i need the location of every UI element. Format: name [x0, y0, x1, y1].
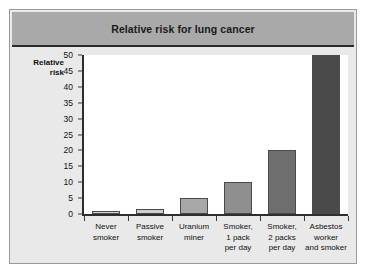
- y-axis-tick-label: 40: [64, 82, 73, 92]
- y-axis-tick-label: 20: [64, 145, 73, 155]
- y-axis-tick-label: 25: [64, 130, 73, 140]
- bar-slot: [128, 55, 172, 214]
- x-axis-tick-label-line: 2 packs: [261, 233, 303, 244]
- y-axis-tick-label: 45: [64, 66, 73, 76]
- x-axis-tick-label-line: 1 pack: [217, 233, 259, 244]
- x-axis-tick-label-line: smoker: [85, 233, 127, 244]
- x-axis-tick-mark: [128, 216, 129, 221]
- x-axis-tick-mark: [84, 216, 85, 221]
- x-axis-tick-label: Smoker,2 packsper day: [260, 222, 304, 254]
- page-title: Relative risk for lung cancer: [111, 23, 255, 35]
- y-axis-tick-label: 0: [68, 209, 73, 219]
- x-axis-tick-label-line: and smoker: [305, 243, 347, 254]
- y-axis-tick-label: 10: [64, 177, 73, 187]
- x-axis-tick-label-line: worker: [305, 233, 347, 244]
- x-axis-tick-label-line: per day: [217, 243, 259, 254]
- bar-series: [84, 55, 348, 214]
- y-axis-tick-label: 5: [68, 193, 73, 203]
- y-axis-tick-label: 50: [64, 50, 73, 60]
- chart-figure: Relative risk for lung cancer Relative r…: [9, 9, 357, 264]
- bar-5: [268, 150, 295, 214]
- x-axis-tick-label-line: Smoker,: [261, 222, 303, 233]
- x-axis-tick-mark: [304, 216, 305, 221]
- x-axis-tick-label: Passivesmoker: [128, 222, 172, 254]
- x-axis-tick-label-line: Never: [85, 222, 127, 233]
- x-axis-tick-mark: [216, 216, 217, 221]
- x-axis-tick-label-line: smoker: [129, 233, 171, 244]
- x-axis-tick-label-line: per day: [261, 243, 303, 254]
- chart-title-bar: Relative risk for lung cancer: [12, 12, 354, 47]
- y-axis-tick-labels: 05101520253035404550: [57, 55, 77, 215]
- x-axis-tick-mark: [348, 216, 349, 221]
- bar-6: [312, 55, 339, 214]
- plot-area: 05101520253035404550 NeversmokerPassives…: [57, 55, 349, 260]
- x-axis-tick-label: Smoker,1 packper day: [216, 222, 260, 254]
- x-axis-tick-label-line: Uranium: [173, 222, 215, 233]
- x-axis-tick-mark: [260, 216, 261, 221]
- bar-slot: [260, 55, 304, 214]
- x-axis-tick-marks: [84, 216, 348, 221]
- x-axis-tick-label: Asbestosworkerand smoker: [304, 222, 348, 254]
- bar-1: [92, 211, 119, 214]
- x-axis-tick-label-line: Smoker,: [217, 222, 259, 233]
- bar-slot: [172, 55, 216, 214]
- x-axis-tick-label-line: Passive: [129, 222, 171, 233]
- bar-2: [136, 209, 163, 214]
- bar-slot: [304, 55, 348, 214]
- x-axis-tick-mark: [172, 216, 173, 221]
- bar-slot: [84, 55, 128, 214]
- x-axis-tick-labels: NeversmokerPassivesmokerUraniumminerSmok…: [84, 222, 348, 254]
- x-axis-tick-label: Uraniumminer: [172, 222, 216, 254]
- x-axis-tick-label: Neversmoker: [84, 222, 128, 254]
- bar-3: [180, 198, 207, 214]
- y-axis-tick-label: 35: [64, 98, 73, 108]
- y-axis-tick-label: 30: [64, 114, 73, 124]
- bar-4: [224, 182, 251, 214]
- x-axis-tick-label-line: miner: [173, 233, 215, 244]
- x-axis-tick-label-line: Asbestos: [305, 222, 347, 233]
- bar-slot: [216, 55, 260, 214]
- y-axis-tick-label: 15: [64, 161, 73, 171]
